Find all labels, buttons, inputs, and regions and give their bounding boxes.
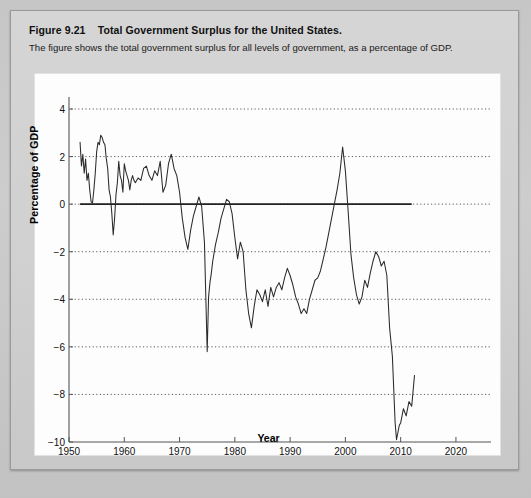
y-tick-label: −6	[39, 341, 65, 352]
y-tick-label: −4	[39, 294, 65, 305]
chart-panel: Percentage of GDP 420−2−4−6−8−10 1950196…	[34, 73, 501, 456]
figure-description: The figure shows the total government su…	[29, 41, 504, 54]
x-tick-label: 2020	[436, 446, 476, 457]
figure-caption: Figure 9.21 Total Government Surplus for…	[29, 23, 504, 54]
chart-plot-svg	[35, 74, 502, 457]
data-series-line	[80, 135, 414, 439]
x-tick-label: 1980	[215, 446, 255, 457]
x-tick-label: 1990	[270, 446, 310, 457]
y-tick-label: −2	[39, 246, 65, 257]
tick-marks-group	[69, 109, 456, 442]
x-tick-label: 1970	[160, 446, 200, 457]
chart-axes-area: Percentage of GDP 420−2−4−6−8−10 1950196…	[35, 74, 502, 457]
figure-card: Figure 9.21 Total Government Surplus for…	[10, 10, 519, 470]
x-tick-label: 2010	[381, 446, 421, 457]
y-tick-label: −8	[39, 389, 65, 400]
gridlines-group	[71, 109, 491, 394]
y-tick-label: 0	[39, 199, 65, 210]
x-tick-label: 1960	[104, 446, 144, 457]
y-tick-label: 4	[39, 104, 65, 115]
caption-title-line: Figure 9.21 Total Government Surplus for…	[29, 23, 504, 37]
x-tick-label: 1950	[49, 446, 89, 457]
x-axis-title: Year	[35, 432, 502, 444]
y-tick-label: 2	[39, 151, 65, 162]
page-background: Figure 9.21 Total Government Surplus for…	[0, 0, 531, 498]
figure-title: Total Government Surplus for the United …	[98, 24, 342, 36]
figure-number: Figure 9.21	[29, 24, 86, 36]
axis-lines-group	[69, 97, 491, 442]
x-tick-label: 2000	[325, 446, 365, 457]
